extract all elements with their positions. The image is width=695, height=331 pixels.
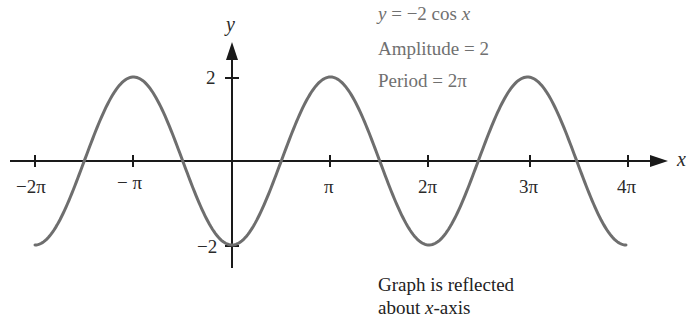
y-tick-label: −2 [197,236,217,258]
x-tick-label: π [324,176,334,198]
x-axis-arrow-icon [650,155,668,167]
y-axis-arrow-icon [226,42,238,60]
amplitude-label: Amplitude = 2 [378,38,489,60]
x-tick-label: − π [117,172,142,194]
equation-label: y = −2 cos x [378,3,470,25]
period-label: Period = 2π [378,70,467,92]
reflection-note: Graph is reflected about x-axis [378,273,514,319]
x-tick-label: 4π [617,176,636,198]
plot-canvas [0,0,695,331]
x-axis-label: x [677,148,686,171]
x-tick-label: 2π [418,176,437,198]
x-tick-label: 3π [519,176,538,198]
equation-x: x [462,3,470,24]
equation-body: = −2 cos [386,3,461,24]
x-tick-label: −2π [16,176,46,198]
y-tick-label: 2 [206,67,216,89]
y-axis-label: y [226,13,235,36]
reflection-note-line1: Graph is reflected [378,273,514,296]
reflection-note-line2: about x-axis [378,296,514,319]
